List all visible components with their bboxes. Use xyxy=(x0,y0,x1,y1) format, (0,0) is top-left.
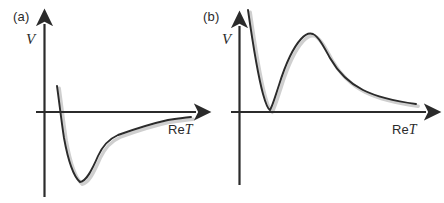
panel-b-plot xyxy=(222,0,444,203)
panel-b-curve xyxy=(248,10,416,110)
panel-a-plot xyxy=(0,0,222,203)
panel-a: (a) V ReT xyxy=(0,0,222,203)
panel-b-label: (b) xyxy=(203,10,220,23)
panel-a-curve-shadow xyxy=(59,88,193,184)
panel-b: (b) V ReT xyxy=(222,0,444,203)
figure-container: (a) V ReT (b) V ReT xyxy=(0,0,444,203)
panel-a-curve xyxy=(57,86,191,182)
